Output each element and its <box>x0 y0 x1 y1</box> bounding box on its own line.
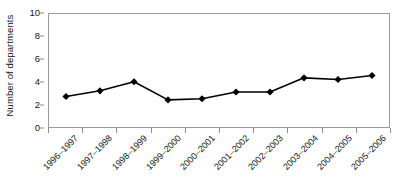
x-tick-mark <box>390 128 391 133</box>
y-tick-label: 10 <box>29 8 40 18</box>
y-tick-mark <box>40 13 44 14</box>
x-tick-label: 2000–2001 <box>178 133 217 172</box>
line-chart: Number of departments 0246810 1996–19971… <box>0 0 409 192</box>
data-point-marker <box>164 96 171 103</box>
y-axis-tick-labels: 0246810 <box>20 13 44 128</box>
y-tick-mark <box>40 59 44 60</box>
x-axis-tick-labels: 1996–19971997–19981998–19991999–20002000… <box>48 133 390 192</box>
data-series-line <box>49 14 389 127</box>
data-point-marker <box>334 76 341 83</box>
x-tick-label: 1998–1999 <box>110 133 149 172</box>
data-point-marker <box>368 72 375 79</box>
series-line <box>66 76 372 100</box>
data-point-marker <box>232 88 239 95</box>
data-point-marker <box>96 87 103 94</box>
x-tick-label: 1999–2000 <box>144 133 183 172</box>
x-tick-label: 2001–2002 <box>212 133 251 172</box>
x-tick-label: 2004–2005 <box>315 133 354 172</box>
y-axis-title-text: Number of departments <box>5 14 16 116</box>
x-tick-label: 2002–2003 <box>246 133 285 172</box>
y-tick-mark <box>40 36 44 37</box>
data-point-marker <box>300 74 307 81</box>
y-axis-title: Number of departments <box>0 0 20 130</box>
x-tick-label: 1996–1997 <box>41 133 80 172</box>
x-tick-label: 2005–2006 <box>349 133 388 172</box>
data-point-marker <box>130 78 137 85</box>
plot-area <box>48 13 390 128</box>
y-tick-mark <box>40 82 44 83</box>
x-tick-label: 2003–2004 <box>281 133 320 172</box>
y-tick-mark <box>40 105 44 106</box>
y-tick-mark <box>40 128 44 129</box>
data-point-marker <box>198 95 205 102</box>
data-point-marker <box>266 88 273 95</box>
x-tick-label: 1997–1998 <box>75 133 114 172</box>
data-point-marker <box>62 93 69 100</box>
